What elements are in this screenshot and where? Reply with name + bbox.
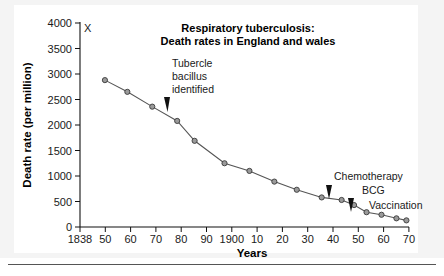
data-point-marker xyxy=(192,138,197,143)
annotation-chemotherapy-arrow-icon xyxy=(326,185,332,199)
annotation-tubercle: Tubercle bacillus identified xyxy=(164,57,214,112)
annotation-bcg-label: BCG xyxy=(362,184,385,196)
x-tick-label-1900: 1900 xyxy=(220,233,244,245)
y-axis-ticks: 0 500 1000 1500 2000 2500 3000 3500 4000 xyxy=(48,17,80,233)
x-tick-label-1930: 30 xyxy=(302,233,314,245)
data-point-marker xyxy=(222,161,227,166)
data-point-marker xyxy=(319,195,324,200)
x-tick-label-1870: 70 xyxy=(150,233,162,245)
data-point-marker xyxy=(294,187,299,192)
figure-container: X Respiratory tuberculosis: Death rates … xyxy=(0,0,444,276)
annotation-tubercle-arrow-icon xyxy=(164,97,170,112)
y-tick-label-3500: 3500 xyxy=(48,43,72,55)
y-tick-label-0: 0 xyxy=(66,221,72,233)
x-tick-label-1920: 20 xyxy=(276,233,288,245)
y-tick-label-1500: 1500 xyxy=(48,145,72,157)
x-axis-title: Years xyxy=(237,247,268,259)
x-tick-label-1940: 40 xyxy=(327,233,339,245)
y-axis-title: Death rate (per million) xyxy=(21,62,33,187)
annotation-chemotherapy-label: Chemotherapy xyxy=(334,170,404,182)
annotation-vaccination-label: Vaccination xyxy=(369,199,423,211)
x-tick-label-1910: 10 xyxy=(251,233,263,245)
data-point-marker xyxy=(339,197,344,202)
corner-x-marker: X xyxy=(84,22,92,34)
data-point-marker xyxy=(379,212,384,217)
y-tick-label-3000: 3000 xyxy=(48,68,72,80)
y-tick-label-500: 500 xyxy=(54,196,72,208)
y-tick-label-2500: 2500 xyxy=(48,94,72,106)
annotation-tubercle-line3: identified xyxy=(172,83,214,95)
data-point-marker xyxy=(404,218,409,223)
data-point-marker xyxy=(175,118,180,123)
series-line xyxy=(105,80,406,220)
x-tick-label-1950: 50 xyxy=(352,233,364,245)
x-tick-label-1838: 1838 xyxy=(68,233,92,245)
y-tick-label-2000: 2000 xyxy=(48,119,72,131)
y-tick-label-4000: 4000 xyxy=(48,17,72,29)
x-tick-label-1970: 70 xyxy=(403,233,415,245)
x-tick-label-1850: 50 xyxy=(99,233,111,245)
annotation-tubercle-line2: bacillus xyxy=(172,70,207,82)
data-point-marker xyxy=(150,104,155,109)
data-point-marker xyxy=(247,168,252,173)
series-markers xyxy=(102,78,409,223)
x-axis-ticks: 1838 50 60 70 80 90 1900 10 20 30 40 50 … xyxy=(68,227,415,245)
data-point-marker xyxy=(394,216,399,221)
y-tick-label-1000: 1000 xyxy=(48,170,72,182)
data-point-marker xyxy=(272,179,277,184)
data-point-marker xyxy=(102,78,107,83)
x-tick-label-1860: 60 xyxy=(124,233,136,245)
chart-title-line2: Death rates in England and wales xyxy=(161,35,336,47)
x-tick-label-1960: 60 xyxy=(377,233,389,245)
chart-title-line1: Respiratory tuberculosis: xyxy=(181,22,314,34)
annotation-tubercle-line1: Tubercle xyxy=(172,57,213,69)
data-point-marker xyxy=(125,89,130,94)
x-tick-label-1880: 80 xyxy=(175,233,187,245)
tuberculosis-line-chart: X Respiratory tuberculosis: Death rates … xyxy=(0,0,444,276)
x-tick-label-1890: 90 xyxy=(200,233,212,245)
